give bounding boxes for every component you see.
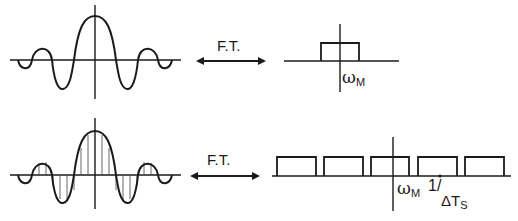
- bottom-freq-domain-plot: [272, 137, 511, 211]
- spectrum-replicas: [277, 157, 504, 176]
- spectrum-replica: [371, 157, 409, 176]
- top-ft-arrow: [196, 57, 266, 65]
- spectrum-replica: [277, 157, 316, 176]
- spectrum-replica: [418, 157, 457, 176]
- arrow-head-left-icon: [190, 172, 198, 180]
- spectrum-replica: [465, 157, 504, 176]
- omega-symbol: ω: [342, 67, 356, 87]
- delta-t-text: ΔT: [441, 192, 460, 209]
- delta-t-subscript: S: [460, 199, 467, 211]
- arrow-head-left-icon: [196, 57, 204, 65]
- omega-symbol: ω: [397, 178, 411, 198]
- period-label-denominator: ΔTS: [441, 192, 468, 209]
- top-ft-label: F.T.: [217, 37, 240, 54]
- spectrum-replica: [324, 157, 363, 176]
- bottom-ft-label: F.T.: [207, 151, 230, 168]
- arrow-head-right-icon: [258, 57, 266, 65]
- omega-subscript: M: [356, 76, 365, 88]
- bottom-time-domain-plot: [10, 118, 181, 209]
- period-label-numerator: 1/: [428, 177, 441, 195]
- bottom-ft-arrow: [190, 172, 260, 180]
- omega-subscript: M: [411, 187, 420, 199]
- top-omega-m-label: ωM: [342, 67, 365, 87]
- top-time-domain-plot: [10, 5, 181, 99]
- arrow-head-right-icon: [252, 172, 260, 180]
- bottom-omega-m-label: ωM: [397, 178, 420, 198]
